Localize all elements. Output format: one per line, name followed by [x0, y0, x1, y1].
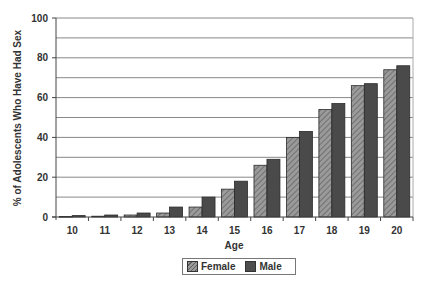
female-swatch-icon [187, 261, 198, 272]
x-tick-label: 18 [326, 225, 338, 236]
x-tick-label: 14 [196, 225, 208, 236]
x-tick-label: 15 [229, 225, 241, 236]
bar-male [235, 181, 248, 217]
bars [59, 66, 410, 217]
x-tick-label: 16 [261, 225, 273, 236]
x-tick-label: 13 [164, 225, 176, 236]
bar-female [286, 137, 299, 217]
legend-label-female: Female [201, 261, 235, 272]
bar-female [319, 110, 332, 217]
x-tick-label: 19 [359, 225, 371, 236]
bar-male [397, 66, 410, 217]
x-tick-label: 17 [294, 225, 306, 236]
x-tick-label: 12 [132, 225, 144, 236]
bar-male [137, 213, 150, 217]
bar-chart: 0204060801001011121314151617181920 % of … [0, 0, 421, 283]
bar-male [332, 104, 345, 217]
legend-label-male: Male [259, 261, 281, 272]
bar-female [384, 70, 397, 217]
y-axis-title: % of Adolescents Who Have Had Sex [12, 29, 23, 206]
bar-male [170, 207, 183, 217]
bar-female [254, 165, 267, 217]
y-tick-label: 0 [42, 212, 48, 223]
bar-female [351, 86, 364, 217]
legend-item-male: Male [245, 261, 281, 272]
bar-male [267, 159, 280, 217]
bar-male [202, 197, 215, 217]
x-tick-label: 10 [67, 225, 79, 236]
x-tick-label: 20 [391, 225, 403, 236]
x-axis-title: Age [225, 240, 244, 251]
bar-male [364, 84, 377, 217]
y-tick-label: 40 [37, 132, 49, 143]
legend: Female Male [182, 258, 296, 275]
bar-female [157, 213, 170, 217]
bar-female [222, 189, 235, 217]
y-tick-label: 20 [37, 172, 49, 183]
y-tick-label: 100 [31, 13, 48, 24]
male-swatch-icon [245, 261, 256, 272]
x-tick-label: 11 [99, 225, 110, 236]
y-tick-label: 80 [37, 52, 49, 63]
bar-female [189, 207, 202, 217]
legend-item-female: Female [187, 261, 235, 272]
y-tick-label: 60 [37, 92, 49, 103]
bar-male [299, 131, 312, 217]
